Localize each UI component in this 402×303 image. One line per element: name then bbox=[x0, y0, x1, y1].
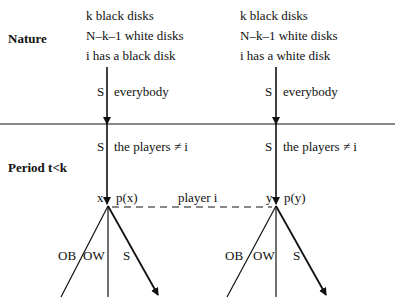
right-state-line-1: k black disks bbox=[240, 9, 308, 23]
left-action-ow: OW bbox=[83, 249, 105, 263]
right-move1-action: S bbox=[265, 85, 272, 99]
left-node-label: x bbox=[97, 191, 104, 205]
left-move1-action: S bbox=[97, 85, 104, 99]
right-move2-action: S bbox=[265, 140, 272, 154]
right-state-line-3: i has a white disk bbox=[240, 49, 330, 63]
stage-label-period: Period t<k bbox=[8, 161, 67, 175]
right-move1-player: everybody bbox=[283, 85, 338, 99]
left-action-s: S bbox=[123, 249, 130, 263]
left-move2-player: the players ≠ i bbox=[114, 140, 188, 154]
right-action-ob: OB bbox=[225, 249, 243, 263]
right-move2-player: the players ≠ i bbox=[283, 140, 357, 154]
left-state-line-1: k black disks bbox=[86, 9, 154, 23]
left-move2-action: S bbox=[97, 140, 104, 154]
right-action-s: S bbox=[293, 249, 300, 263]
left-action-ob: OB bbox=[58, 249, 76, 263]
left-node-prob: p(x) bbox=[116, 191, 138, 205]
right-action-ow: OW bbox=[253, 249, 275, 263]
left-move1-player: everybody bbox=[114, 85, 169, 99]
stage-label-nature: Nature bbox=[8, 32, 47, 46]
left-branch-s bbox=[108, 206, 158, 295]
left-state-line-3: i has a black disk bbox=[86, 49, 176, 63]
information-set-label: player i bbox=[178, 191, 217, 205]
right-branch-s bbox=[276, 206, 326, 295]
right-node-label: y bbox=[266, 191, 273, 205]
right-state-line-2: N–k–1 white disks bbox=[240, 29, 338, 43]
right-node-prob: p(y) bbox=[284, 191, 306, 205]
left-state-line-2: N–k–1 white disks bbox=[86, 29, 184, 43]
